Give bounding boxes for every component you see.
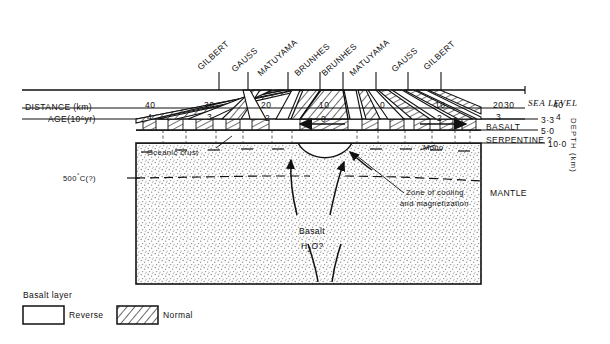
distance-tick-value: 10 [435, 100, 445, 110]
legend-title: Basalt layer [23, 290, 72, 300]
distance-tick-value: 20 [493, 100, 503, 110]
moho-label: Moho [423, 143, 444, 152]
isotherm-500c-label: 500°C(?) [63, 172, 96, 183]
age-tick-value: 0 [321, 114, 326, 124]
age-tick-value: 3 [207, 112, 212, 122]
distance-tick-value: 30 [504, 100, 514, 110]
distance-tick-value: 10 [319, 100, 329, 110]
distance-axis-label: DISTANCE (km) [25, 102, 92, 112]
mantle-body [136, 143, 481, 284]
distance-tick-value: 40 [145, 100, 155, 110]
legend-normal-label: Normal [163, 310, 193, 320]
basalt-source-label-line2: H2O? [301, 241, 324, 253]
age-axis-label: AGE(10⁶yr) [48, 114, 96, 124]
age-tick-value: 3 [496, 112, 501, 122]
legend-swatch-reverse [23, 306, 64, 324]
age-tick-value: 2 [437, 113, 442, 123]
depth-tick-value: 3·3 [541, 115, 555, 125]
cooling-zone-label-line2: and magnetization [400, 199, 469, 208]
age-tick-value: 2 [265, 113, 270, 123]
serpentine-layer-label: SERPENTINE ? [486, 135, 552, 145]
age-tick-value: 4 [556, 112, 561, 122]
sea-level-label: SEA LEVEL [528, 98, 578, 108]
magnetic-stripes [136, 90, 481, 123]
legend-swatch-normal [117, 306, 158, 324]
epoch-leader-lines [219, 72, 441, 90]
basalt-layer-label: BASALT [486, 122, 520, 132]
distance-tick-value: 20 [261, 100, 271, 110]
depth-axis-label: DEPTH (km) [569, 118, 578, 173]
depth-tick-value: 10·0 [548, 139, 567, 149]
oceanic-crust-label: Oceanic crust [147, 148, 199, 157]
mantle-label: MANTLE [490, 188, 527, 198]
depth-tick-value: 5·0 [541, 126, 555, 136]
age-tick-value: 4 [147, 112, 152, 122]
cooling-zone-label: Zone of cooling [406, 188, 464, 197]
distance-tick-value: 0 [380, 100, 385, 110]
basalt-source-label: Basalt [299, 226, 325, 236]
legend-reverse-label: Reverse [69, 310, 103, 320]
distance-tick-value: 30 [204, 100, 214, 110]
